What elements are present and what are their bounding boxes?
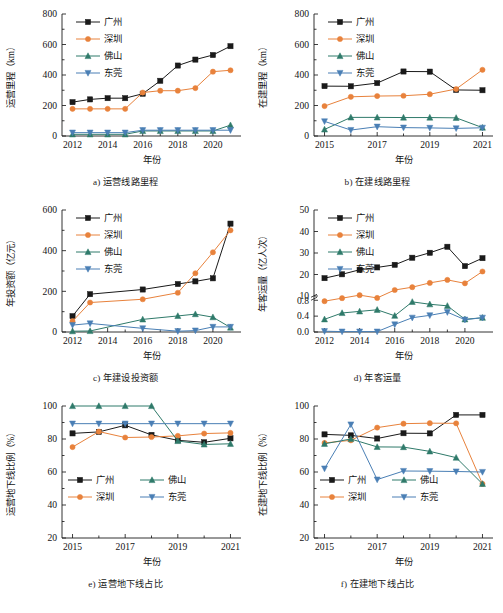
marker-guangzhou — [454, 412, 459, 417]
marker-shenzhen — [375, 295, 380, 300]
y-tick-label: 60 — [299, 466, 309, 477]
x-tick-label: 2019 — [420, 541, 439, 552]
y-axis-label: 在建地下线比例（%） — [257, 428, 268, 517]
data-point-marker — [85, 232, 90, 237]
legend-label-foshan: 佛山 — [104, 50, 122, 61]
marker-guangzhou — [480, 256, 485, 261]
x-tick-label: 2021 — [473, 541, 492, 552]
legend-label-dongguan: 东莞 — [168, 491, 186, 502]
x-tick-label: 2019 — [420, 139, 439, 150]
marker-guangzhou — [462, 264, 467, 269]
marker-shenzhen — [123, 435, 128, 440]
marker-guangzhou — [105, 96, 110, 101]
marker-dongguan — [322, 466, 328, 472]
y-tick-label: 0.0 — [297, 326, 309, 337]
marker-shenzhen — [175, 290, 180, 295]
y-tick-label: 40 — [47, 499, 57, 510]
marker-shenzhen — [375, 425, 380, 430]
panel-caption-c: c) 年建设投资额 — [0, 370, 251, 384]
y-tick-label: 600 — [43, 39, 58, 50]
marker-guangzhou — [70, 431, 75, 436]
marker-foshan — [322, 126, 328, 132]
legend-label-shenzhen: 深圳 — [104, 230, 122, 240]
x-tick-label: 2017 — [368, 541, 387, 552]
legend: 广州深圳佛山东莞 — [328, 212, 374, 274]
marker-guangzhou — [480, 412, 485, 417]
panel-caption-e: e) 运营地下线占比 — [0, 576, 251, 590]
series-line-shenzhen — [325, 272, 483, 302]
marker-guangzhou — [348, 84, 353, 89]
x-tick-label: 2015 — [315, 541, 334, 552]
figure-panel-grid: 020040060080020122014201620182020运营里程（km… — [0, 0, 503, 613]
x-tick-label: 2016 — [133, 335, 152, 346]
legend-label-shenzhen: 深圳 — [356, 230, 374, 240]
y-tick-label: 600 — [43, 204, 58, 215]
legend-label-dongguan: 东莞 — [356, 67, 374, 78]
y-tick-label: 40 — [299, 499, 309, 510]
panel-caption-b: b) 在建线路里程 — [252, 174, 503, 188]
marker-shenzhen — [322, 104, 327, 109]
x-axis-label: 年份 — [143, 350, 162, 361]
marker-guangzhou — [87, 292, 92, 297]
marker-guangzhou — [427, 250, 432, 255]
legend-label-shenzhen: 深圳 — [356, 34, 374, 44]
x-tick-label: 2016 — [133, 139, 152, 150]
data-point-marker — [337, 19, 342, 24]
marker-shenzhen — [158, 88, 163, 93]
x-tick-label: 2021 — [221, 541, 240, 552]
marker-guangzhou — [140, 287, 145, 292]
y-tick-label: 10 — [299, 290, 309, 301]
marker-shenzhen — [87, 300, 92, 305]
marker-dongguan — [392, 322, 398, 328]
y-axis-label: 年客运量（亿人次） — [257, 231, 268, 312]
x-axis-label: 年份 — [143, 154, 162, 165]
legend: 广州深圳佛山东莞 — [328, 16, 374, 78]
y-axis-label: 运营里程（km） — [5, 42, 16, 108]
x-tick-label: 2018 — [168, 335, 187, 346]
data-point-marker — [77, 477, 82, 482]
marker-shenzhen — [228, 68, 233, 73]
y-tick-label: 0.4 — [297, 310, 309, 321]
marker-shenzhen — [70, 444, 75, 449]
y-tick-label: 400 — [43, 245, 58, 256]
data-point-marker — [337, 36, 342, 41]
x-tick-label: 2017 — [116, 541, 135, 552]
legend-label-guangzhou: 广州 — [348, 474, 366, 485]
y-tick-label: 100 — [295, 400, 310, 411]
y-tick-label: 200 — [43, 100, 58, 111]
x-tick-label: 2020 — [203, 139, 222, 150]
marker-guangzhou — [228, 221, 233, 226]
marker-dongguan — [374, 477, 380, 483]
marker-shenzhen — [175, 88, 180, 93]
chart-svg-f: 204060801002015201720192021在建地下线比例（%）年份广… — [252, 392, 503, 574]
chart-panel-d: 0.00.40.8102030405020122014201620182020年… — [252, 196, 503, 400]
y-tick-label: 200 — [295, 100, 310, 111]
legend-label-shenzhen: 深圳 — [104, 34, 122, 44]
data-point-marker — [85, 215, 90, 220]
x-tick-label: 2014 — [98, 335, 117, 346]
marker-shenzhen — [210, 250, 215, 255]
x-tick-label: 2015 — [63, 541, 82, 552]
legend-label-foshan: 佛山 — [356, 246, 374, 257]
data-point-marker — [329, 477, 334, 482]
marker-shenzhen — [462, 281, 467, 286]
x-axis-label: 年份 — [395, 556, 414, 567]
legend: 广州佛山深圳东莞 — [68, 474, 186, 502]
marker-shenzhen — [375, 93, 380, 98]
marker-shenzhen — [193, 271, 198, 276]
y-tick-label: 600 — [295, 39, 310, 50]
data-point-marker — [85, 19, 90, 24]
marker-guangzhou — [210, 52, 215, 57]
marker-shenzhen — [123, 106, 128, 111]
legend-label-foshan: 佛山 — [168, 474, 186, 485]
marker-foshan — [227, 122, 233, 128]
marker-guangzhou — [375, 265, 380, 270]
y-tick-label: 20 — [47, 532, 57, 543]
marker-foshan — [409, 299, 415, 305]
legend-label-guangzhou: 广州 — [96, 474, 114, 485]
x-tick-label: 2012 — [63, 335, 82, 346]
chart-panel-e: 204060801002015201720192021运营地下线比例（%）年份广… — [0, 392, 251, 596]
marker-shenzhen — [96, 429, 101, 434]
marker-shenzhen — [445, 277, 450, 282]
panel-caption-f: f) 在建地下线占比 — [252, 576, 503, 590]
